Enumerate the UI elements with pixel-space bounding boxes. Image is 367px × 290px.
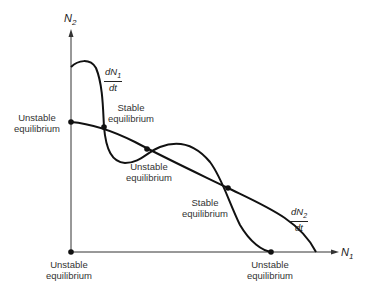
equilibrium-point <box>68 119 74 125</box>
y-axis-label: N2 <box>64 12 76 27</box>
label-stable-lower: Stableequilibrium <box>182 197 228 219</box>
label-unstable-origin: Unstableequilibrium <box>46 259 92 281</box>
phase-plane-diagram <box>0 0 367 290</box>
x-axis-label: N1 <box>341 246 353 261</box>
dn2-dt-label: dN2 dt <box>290 206 308 233</box>
equilibrium-point <box>268 249 274 255</box>
dn1-isocline <box>71 61 272 252</box>
y-axis-arrow-icon <box>69 29 74 37</box>
equilibrium-point <box>101 124 107 130</box>
equilibrium-point <box>144 146 150 152</box>
x-axis-arrow-icon <box>331 250 339 255</box>
label-stable-upper: Stableequilibrium <box>108 102 154 124</box>
label-unstable-n2-axis: Unstableequilibrium <box>14 112 60 134</box>
dn1-dt-label: dN1 dt <box>104 66 122 93</box>
label-unstable-middle: Unstableequilibrium <box>126 161 172 183</box>
equilibrium-point <box>68 249 74 255</box>
dn2-isocline <box>71 122 316 252</box>
equilibrium-point <box>225 185 231 191</box>
label-unstable-n1-axis: Unstableequilibrium <box>247 259 293 281</box>
